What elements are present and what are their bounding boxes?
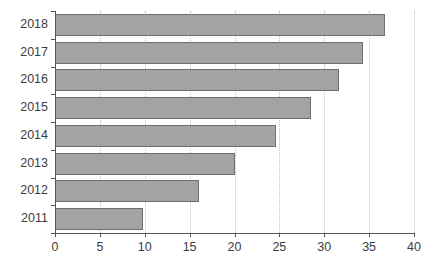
x-tick-30 bbox=[324, 233, 325, 237]
bar-chart: 20182017201620152014201320122011 0510152… bbox=[0, 0, 437, 264]
x-tick-label-10: 10 bbox=[138, 240, 152, 254]
y-axis-line bbox=[55, 11, 56, 233]
x-tick-label-0: 0 bbox=[52, 240, 59, 254]
y-tick-2016 bbox=[51, 67, 55, 68]
bar-2011 bbox=[55, 208, 143, 230]
x-tick-0 bbox=[55, 233, 56, 237]
y-tick-2011 bbox=[51, 205, 55, 206]
y-tick-2017 bbox=[51, 39, 55, 40]
bar-2015 bbox=[55, 97, 311, 119]
x-tick-40 bbox=[414, 233, 415, 237]
y-tick-2013 bbox=[51, 150, 55, 151]
x-tick-25 bbox=[279, 233, 280, 237]
bar-2012 bbox=[55, 180, 199, 202]
bar-2016 bbox=[55, 69, 339, 91]
x-tick-label-15: 15 bbox=[183, 240, 197, 254]
bar-2013 bbox=[55, 153, 235, 175]
y-tick-2018 bbox=[51, 11, 55, 12]
y-tick-label-2014: 2014 bbox=[0, 128, 48, 142]
bar-2018 bbox=[55, 14, 385, 36]
y-tick-2014 bbox=[51, 122, 55, 123]
x-tick-20 bbox=[235, 233, 236, 237]
y-tick-2012 bbox=[51, 178, 55, 179]
x-tick-label-25: 25 bbox=[272, 240, 286, 254]
gridline-35 bbox=[369, 11, 370, 233]
x-tick-label-40: 40 bbox=[407, 240, 421, 254]
y-tick-label-2012: 2012 bbox=[0, 183, 48, 197]
y-tick-label-2015: 2015 bbox=[0, 100, 48, 114]
plot-area bbox=[55, 11, 414, 233]
x-tick-10 bbox=[145, 233, 146, 237]
x-tick-label-35: 35 bbox=[362, 240, 376, 254]
y-tick-label-2016: 2016 bbox=[0, 72, 48, 86]
bar-2017 bbox=[55, 42, 363, 64]
y-tick-label-2017: 2017 bbox=[0, 45, 48, 59]
y-tick-label-2011: 2011 bbox=[0, 211, 48, 225]
bar-2014 bbox=[55, 125, 276, 147]
y-tick-2015 bbox=[51, 94, 55, 95]
x-tick-5 bbox=[100, 233, 101, 237]
y-tick-label-2018: 2018 bbox=[0, 17, 48, 31]
x-tick-label-30: 30 bbox=[317, 240, 331, 254]
y-tick-label-2013: 2013 bbox=[0, 156, 48, 170]
x-tick-label-5: 5 bbox=[96, 240, 103, 254]
x-tick-15 bbox=[190, 233, 191, 237]
gridline-40 bbox=[414, 11, 415, 233]
x-tick-35 bbox=[369, 233, 370, 237]
x-tick-label-20: 20 bbox=[228, 240, 242, 254]
